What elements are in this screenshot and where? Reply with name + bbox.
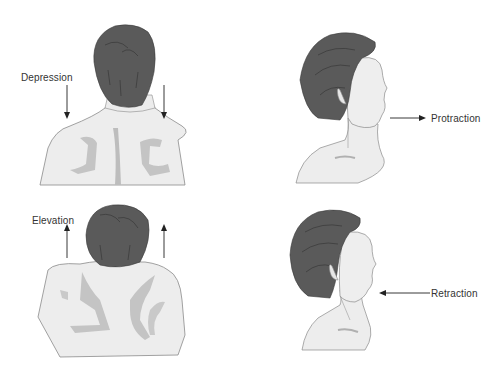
illustration-canvas: [0, 0, 500, 370]
protraction-arrow: [390, 115, 426, 121]
elevation-label: Elevation: [32, 215, 74, 226]
retraction-arrow: [379, 290, 430, 296]
anatomy-figure: Depression Elevation Protraction Retract…: [0, 0, 500, 370]
depression-label: Depression: [21, 72, 73, 83]
retraction-label: Retraction: [431, 288, 478, 299]
protraction-head-illustration: [296, 33, 387, 183]
protraction-label: Protraction: [431, 113, 480, 124]
retraction-head-illustration: [290, 210, 376, 350]
